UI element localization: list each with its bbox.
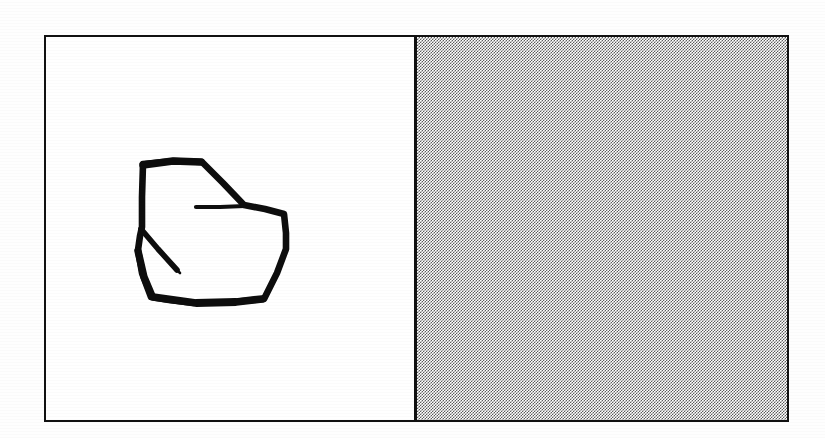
- polygon-accent-upper-left: [143, 161, 201, 165]
- figure-root: [0, 0, 825, 438]
- left-white-panel: [46, 37, 414, 420]
- figure-frame: [44, 35, 789, 422]
- right-shaded-panel: [417, 37, 788, 420]
- polygon-outline: [138, 161, 286, 303]
- upper-right-tail: [196, 206, 245, 207]
- polygon-svg: [46, 37, 414, 419]
- left-inward-spike: [141, 229, 177, 270]
- polygon-accent-bottom: [153, 297, 262, 303]
- hand-drawn-polygon: [46, 37, 414, 419]
